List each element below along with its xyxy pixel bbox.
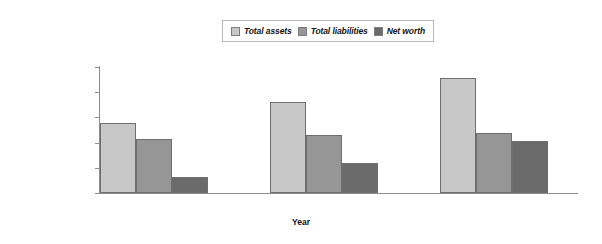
- x-axis-line: [99, 193, 578, 194]
- y-axis-tick: [95, 92, 100, 93]
- chart-legend: Total assetsTotal liabilitiesNet worth: [222, 20, 434, 42]
- legend-item[interactable]: Total assets: [231, 26, 292, 36]
- bar-chart: Total assetsTotal liabilitiesNet worth $…: [0, 0, 602, 244]
- bar[interactable]: [172, 177, 208, 193]
- bar[interactable]: [306, 135, 342, 193]
- bar[interactable]: [440, 78, 476, 193]
- legend-swatch-icon: [298, 27, 307, 36]
- legend-swatch-icon: [374, 27, 383, 36]
- legend-swatch-icon: [231, 27, 240, 36]
- legend-item-label: Net worth: [387, 26, 425, 36]
- bar[interactable]: [136, 139, 172, 193]
- bar[interactable]: [100, 123, 136, 193]
- legend-item[interactable]: Total liabilities: [298, 26, 368, 36]
- plot-area: $0$50,000$100,000$150,000$200,000$250,00…: [100, 67, 578, 193]
- bar[interactable]: [342, 163, 378, 193]
- x-axis-title: Year: [0, 217, 602, 227]
- bar[interactable]: [270, 102, 306, 193]
- y-axis-tick: [95, 67, 100, 68]
- bar[interactable]: [476, 133, 512, 193]
- y-axis-tick: [95, 117, 100, 118]
- y-axis-tick: [95, 193, 100, 194]
- legend-item-label: Total assets: [244, 26, 292, 36]
- bar[interactable]: [512, 141, 548, 193]
- legend-item[interactable]: Net worth: [374, 26, 425, 36]
- legend-item-label: Total liabilities: [311, 26, 368, 36]
